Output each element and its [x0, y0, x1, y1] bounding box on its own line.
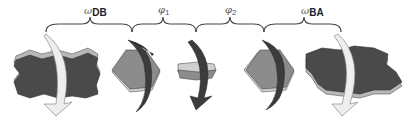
- brace-phi-2: [196, 17, 264, 32]
- slab-ba-shape: [306, 34, 402, 116]
- hexagon-edge-on-shape: [178, 40, 216, 110]
- brace-omega-ba: [264, 17, 341, 32]
- slab-db-shape: [14, 34, 100, 116]
- brace-group: [46, 17, 341, 32]
- rotation-diagram: ωDB φ1 φ2 ωBA: [0, 0, 418, 122]
- diagram-graphics: [0, 0, 418, 122]
- brace-phi-1: [132, 17, 196, 32]
- hexagon-2-shape: [244, 40, 294, 110]
- brace-omega-db: [46, 17, 132, 32]
- hexagon-1-shape: [112, 40, 160, 112]
